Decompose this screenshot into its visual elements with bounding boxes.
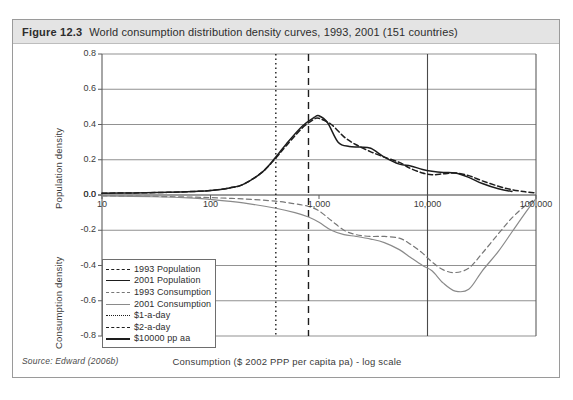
- y-tick-label-consumption: 0.0: [13, 189, 96, 199]
- x-tick-label: 100,000: [496, 199, 573, 209]
- legend-item[interactable]: $1-a-day: [106, 309, 211, 321]
- series-2001-population: [102, 115, 512, 193]
- legend-swatch-icon: [106, 275, 130, 286]
- figure-header: Figure 12.3 World consumption distributi…: [13, 20, 559, 44]
- legend-item-label: 2001 Consumption: [134, 299, 211, 309]
- legend-swatch-icon: [106, 310, 130, 321]
- legend-item[interactable]: 1993 Population: [106, 263, 211, 275]
- legend-item-label: 1993 Population: [134, 264, 201, 274]
- figure-title: World consumption distribution density c…: [89, 26, 457, 38]
- source-note: Source: Edward (2006b): [22, 356, 119, 366]
- y-tick-label-population: 0.6: [13, 83, 96, 93]
- legend-item[interactable]: 2001 Population: [106, 275, 211, 287]
- y-tick-label-population: 0.2: [13, 154, 96, 164]
- legend-item[interactable]: 2001 Consumption: [106, 298, 211, 310]
- y-tick-label-consumption: -0.4: [13, 260, 96, 270]
- legend-item-label: $2-a-day: [134, 322, 170, 332]
- chart-plot-area: Population density Consumption density C…: [13, 44, 561, 378]
- x-tick-label: 100: [171, 199, 251, 209]
- legend-swatch-icon: [106, 333, 130, 344]
- chart-svg: [13, 44, 561, 378]
- y-tick-label-population: 0.4: [13, 119, 96, 129]
- legend-swatch-icon: [106, 263, 130, 274]
- legend-swatch-icon: [106, 298, 130, 309]
- legend-item-label: 2001 Population: [134, 275, 201, 285]
- figure-container: Figure 12.3 World consumption distributi…: [12, 19, 560, 378]
- y-tick-label-consumption: -0.6: [13, 295, 96, 305]
- x-tick-label: 1,000: [279, 199, 359, 209]
- chart-legend: 1993 Population2001 Population1993 Consu…: [102, 259, 216, 348]
- legend-item-label: 1993 Consumption: [134, 287, 211, 297]
- legend-swatch-icon: [106, 321, 130, 332]
- legend-item-label: $10000 pp aa: [134, 333, 190, 343]
- x-tick-label: 10,000: [388, 199, 468, 209]
- legend-item[interactable]: $10000 pp aa: [106, 333, 211, 345]
- x-tick-label: 10: [62, 199, 142, 209]
- figure-number: Figure 12.3: [22, 26, 82, 38]
- legend-item[interactable]: $2-a-day: [106, 321, 211, 333]
- legend-item-label: $1-a-day: [134, 310, 170, 320]
- y-tick-label-consumption: -0.8: [13, 330, 96, 340]
- y-tick-label-consumption: -0.2: [13, 224, 96, 234]
- legend-swatch-icon: [106, 286, 130, 297]
- y-tick-label-population: 0.8: [13, 48, 96, 58]
- series-1993-population: [102, 118, 536, 193]
- x-axis-label: Consumption ($ 2002 PPP per capita pa) -…: [173, 356, 402, 367]
- legend-item[interactable]: 1993 Consumption: [106, 286, 211, 298]
